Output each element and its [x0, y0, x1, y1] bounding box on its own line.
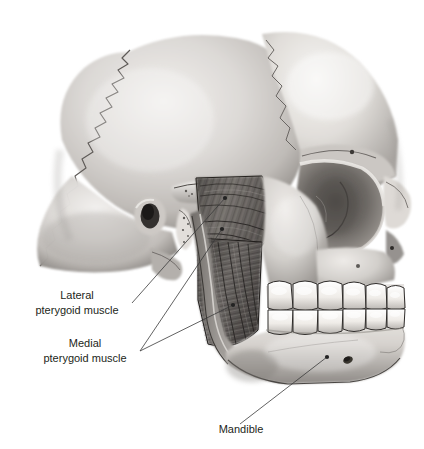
external-acoustic-meatus: [134, 197, 166, 235]
label-mandible-line1: Mandible: [219, 423, 264, 435]
mandibular-teeth: [266, 309, 405, 335]
label-medial-pterygoid-line1: Medial: [69, 337, 101, 349]
label-lateral-pterygoid-line1: Lateral: [60, 289, 94, 301]
label-lateral-pterygoid-line2: pterygoid muscle: [35, 304, 118, 316]
label-mandible: Mandible: [219, 423, 264, 435]
maxillary-teeth: [266, 281, 406, 311]
label-medial-pterygoid-line2: pterygoid muscle: [43, 352, 126, 364]
anatomical-illustration: Lateral pterygoid muscle Medial pterygoi…: [0, 0, 424, 449]
